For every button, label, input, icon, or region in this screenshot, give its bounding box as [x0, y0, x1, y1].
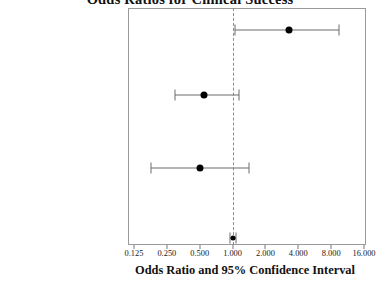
- ci-lower-cap: [175, 90, 176, 101]
- x-axis-title: Odds Ratio and 95% Confidence Interval: [110, 263, 380, 278]
- x-tick-label: 8.000: [322, 249, 341, 258]
- x-tick-label: 0.250: [157, 249, 176, 258]
- ci-upper-cap: [235, 233, 236, 244]
- x-tick-label: 2.000: [256, 249, 275, 258]
- x-tick-label: 0.125: [125, 249, 144, 258]
- ci-upper-cap: [239, 90, 240, 101]
- plot-area-frame: [128, 8, 366, 245]
- x-tick-label: 0.500: [190, 249, 209, 258]
- chart-title: Odds Ratios for Clinical Success: [0, 0, 380, 8]
- forest-plot: Odds Ratios for Clinical Success Active …: [0, 0, 380, 290]
- point-estimate-marker: [201, 92, 208, 99]
- x-tick-label: 16.000: [352, 249, 375, 258]
- x-tick-label: 1.000: [223, 249, 242, 258]
- point-estimate-marker: [286, 27, 293, 34]
- point-estimate-marker: [196, 165, 203, 172]
- ci-lower-cap: [151, 163, 152, 174]
- ci-upper-cap: [339, 25, 340, 36]
- ci-upper-cap: [248, 163, 249, 174]
- point-estimate-marker: [230, 236, 235, 241]
- ci-lower-cap: [234, 25, 235, 36]
- reference-line-or-1: [233, 8, 234, 245]
- x-tick-label: 4.000: [289, 249, 308, 258]
